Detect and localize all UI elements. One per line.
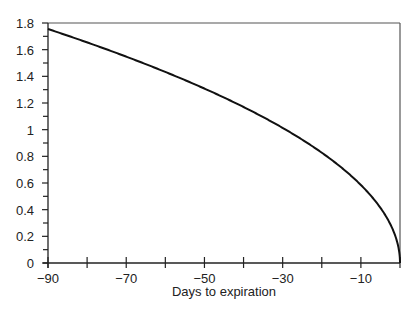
chart: 00.20.40.60.811.21.41.61.8 −90−70−50−30−… (0, 0, 415, 312)
y-tick-label: 0.2 (16, 229, 34, 244)
y-tick-label: 0.6 (16, 176, 34, 191)
x-tick-label: −90 (37, 271, 59, 286)
y-tick-label: 1.8 (16, 16, 34, 31)
y-tick-label: 1.2 (16, 96, 34, 111)
y-tick-label: 1 (27, 123, 34, 138)
y-axis: 00.20.40.60.811.21.41.61.8 (16, 16, 48, 271)
x-axis-label: Days to expiration (172, 284, 276, 299)
plot-frame (43, 23, 400, 268)
y-tick-label: 0.4 (16, 203, 34, 218)
x-axis: −90−70−50−30−10 (37, 257, 400, 286)
x-tick-label: −70 (115, 271, 137, 286)
series-line (48, 29, 400, 263)
y-tick-label: 1.4 (16, 69, 34, 84)
y-tick-label: 1.6 (16, 43, 34, 58)
y-tick-label: 0 (27, 256, 34, 271)
x-tick-label: −10 (350, 271, 372, 286)
y-tick-label: 0.8 (16, 149, 34, 164)
